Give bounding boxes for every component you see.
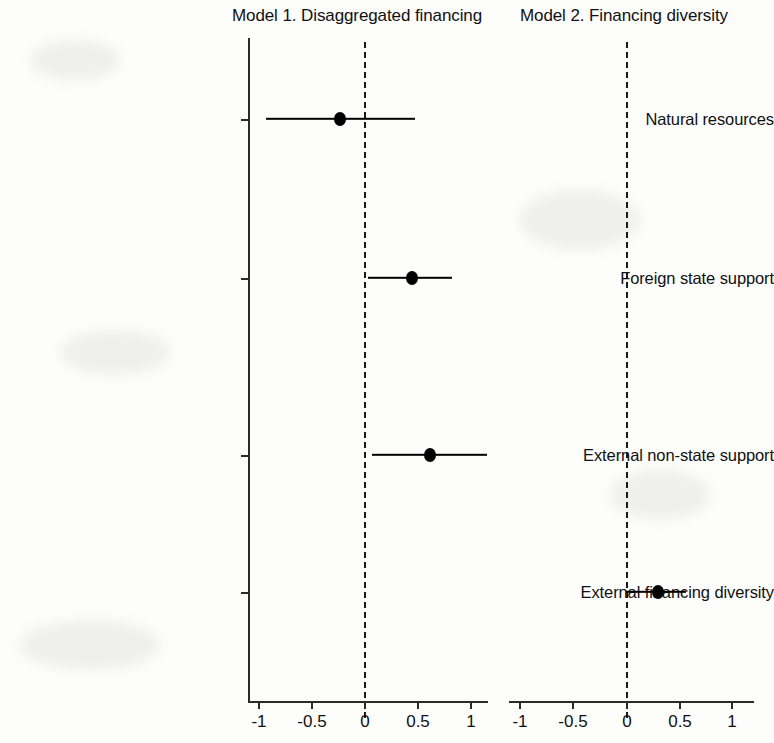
left-panel-x-axis	[248, 701, 488, 703]
x-tick-label-m1-05: 0.5	[406, 712, 430, 732]
right-panel-x-axis	[509, 701, 754, 703]
x-tick-label-m2-1: 1	[727, 712, 736, 732]
point-estimate-external-financing-diversity	[652, 585, 664, 599]
x-tick-label-m2-neg1: -1	[512, 712, 527, 732]
x-tick-m1-neg1	[258, 701, 260, 709]
x-tick-label-m1-neg1: -1	[251, 712, 266, 732]
x-tick-label-m2-neg05: -0.5	[558, 712, 587, 732]
y-tick-external-non-state-support	[241, 455, 248, 457]
scan-artifact	[610, 470, 710, 520]
x-tick-m1-1	[470, 701, 472, 709]
category-label-foreign-state-support: Foreign state support	[536, 269, 774, 288]
x-tick-m2-05	[679, 701, 681, 709]
x-tick-label-m2-zero: 0	[622, 712, 631, 732]
x-tick-m2-1	[731, 701, 733, 709]
scan-artifact	[30, 40, 120, 80]
x-tick-m2-neg1	[519, 701, 521, 709]
zero-reference-line-model-1	[364, 42, 366, 718]
zero-reference-line-model-2	[626, 42, 628, 718]
scan-artifact	[20, 620, 160, 670]
x-tick-m1-neg05	[311, 701, 313, 709]
x-tick-m2-neg05	[572, 701, 574, 709]
x-tick-m2-zero	[626, 701, 628, 709]
x-tick-label-m1-zero: 0	[360, 712, 369, 732]
y-tick-external-financing-diversity-left	[241, 592, 248, 594]
x-tick-label-m1-neg05: -0.5	[297, 712, 326, 732]
point-estimate-foreign-state-support	[406, 271, 418, 285]
category-label-external-non-state-support: External non-state support	[536, 446, 774, 465]
panel-title-model-2: Model 2. Financing diversity	[520, 6, 728, 26]
scan-artifact	[520, 190, 640, 250]
y-tick-natural-resources	[241, 119, 248, 121]
y-tick-foreign-state-support	[241, 278, 248, 280]
scan-artifact	[60, 330, 170, 375]
coefficient-plot-figure: Model 1. Disaggregated financing Model 2…	[0, 0, 774, 743]
x-tick-m1-05	[417, 701, 419, 709]
x-tick-m1-zero	[364, 701, 366, 709]
left-panel-y-axis	[248, 38, 250, 702]
category-label-natural-resources: Natural resources	[536, 110, 774, 129]
x-tick-label-m2-05: 0.5	[668, 712, 692, 732]
panel-title-model-1: Model 1. Disaggregated financing	[232, 6, 482, 26]
point-estimate-external-non-state-support	[424, 448, 436, 462]
x-tick-label-m1-1: 1	[466, 712, 475, 732]
point-estimate-natural-resources	[334, 112, 346, 126]
